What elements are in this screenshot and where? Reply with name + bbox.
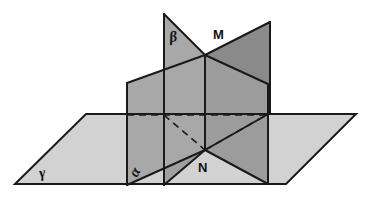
three-planes-diagram: M N β α γ [0,0,372,197]
point-label-m: M [213,27,224,42]
geometry-figure-canvas: M N β α γ [0,0,372,197]
point-label-n: N [198,160,207,175]
